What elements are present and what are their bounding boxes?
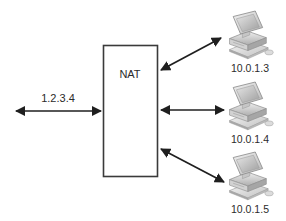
desktop-computer-icon — [230, 152, 274, 200]
host-node-3: 10.0.1.5 — [230, 152, 274, 215]
host-label-1: 10.0.1.3 — [231, 62, 269, 74]
host-node-1: 10.0.1.3 — [230, 11, 274, 74]
host-label-2: 10.0.1.4 — [231, 133, 269, 145]
host-label-3: 10.0.1.5 — [231, 203, 269, 215]
desktop-computer-icon — [230, 82, 274, 130]
nat-diagram: NAT 1.2.3.4 10.0.1.3 10.0.1.4 — [0, 0, 286, 221]
nat-box — [104, 46, 158, 177]
desktop-computer-icon — [230, 11, 274, 59]
host-node-2: 10.0.1.4 — [230, 82, 274, 145]
lan-link-arrow-host-3 — [161, 149, 224, 182]
wan-link-label: 1.2.3.4 — [41, 92, 75, 104]
lan-link-arrow-host-1 — [161, 38, 221, 70]
diagram-canvas: NAT 1.2.3.4 10.0.1.3 10.0.1.4 — [0, 0, 286, 221]
nat-box-label: NAT — [119, 68, 140, 80]
